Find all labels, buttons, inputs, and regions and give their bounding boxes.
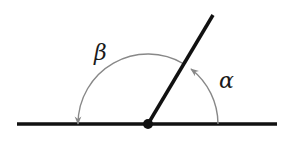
beta-label: β bbox=[93, 40, 107, 65]
slanted-ray bbox=[148, 15, 213, 124]
vertex-point bbox=[143, 119, 153, 129]
alpha-label: α bbox=[219, 68, 234, 93]
alpha-arc-arrow bbox=[191, 69, 218, 124]
angle-diagram: β α bbox=[0, 0, 290, 141]
